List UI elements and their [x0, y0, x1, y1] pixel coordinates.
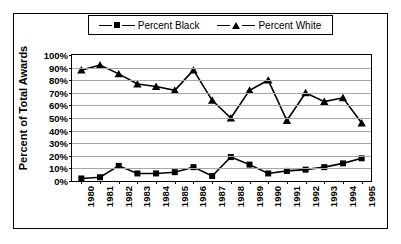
y-tick-label: 40%: [49, 125, 68, 136]
gridline: [72, 131, 371, 132]
x-tick-label: 1994: [347, 186, 358, 207]
y-tick-mark: [69, 105, 72, 106]
legend-line-icon: [122, 25, 135, 26]
x-tick-label: 1984: [160, 186, 171, 207]
gridline: [72, 105, 371, 106]
legend-entry-percent-black: Percent Black: [99, 20, 201, 31]
gridline: [72, 93, 371, 94]
y-tick-label: 70%: [49, 87, 68, 98]
square-marker-icon: [247, 162, 253, 168]
gridline: [72, 80, 371, 81]
gridline: [72, 68, 371, 69]
x-tick-mark: [306, 181, 307, 184]
x-tick-mark: [231, 181, 232, 184]
x-tick-mark: [343, 181, 344, 184]
x-tick-mark: [175, 181, 176, 184]
square-marker-icon: [340, 160, 346, 166]
x-tick-mark: [250, 181, 251, 184]
y-tick-mark: [69, 55, 72, 56]
square-marker-icon: [153, 170, 159, 176]
x-tick-mark: [119, 181, 120, 184]
square-marker-icon: [97, 174, 103, 180]
y-tick-mark: [69, 131, 72, 132]
triangle-marker-icon: [339, 94, 347, 101]
square-marker-icon: [265, 170, 271, 176]
gridline: [72, 168, 371, 169]
y-tick-label: 10%: [49, 163, 68, 174]
x-tick-mark: [268, 181, 269, 184]
y-tick-mark: [69, 93, 72, 94]
triangle-marker-icon: [115, 70, 123, 77]
x-tick-mark: [287, 181, 288, 184]
x-tick-mark: [156, 181, 157, 184]
legend-label-percent-white: Percent White: [257, 20, 322, 31]
y-tick-label: 30%: [49, 138, 68, 149]
legend-line-icon: [217, 25, 230, 26]
x-tick-label: 1992: [310, 186, 321, 207]
x-tick-label: 1988: [235, 186, 246, 207]
square-marker-icon: [209, 173, 215, 179]
y-tick-mark: [69, 68, 72, 69]
series-line-percent-white: [81, 65, 361, 123]
y-tick-label: 60%: [49, 100, 68, 111]
square-marker-icon: [114, 22, 120, 28]
y-tick-mark: [69, 168, 72, 169]
x-tick-label: 1990: [272, 186, 283, 207]
plot-area: 100%90%80%70%60%50%40%30%20%10%0%1980198…: [71, 54, 372, 182]
square-marker-icon: [172, 169, 178, 175]
y-tick-label: 50%: [49, 113, 68, 124]
chart-figure: Percent Black Percent White Percent of T…: [0, 0, 401, 244]
x-tick-label: 1981: [104, 186, 115, 207]
square-marker-icon: [134, 170, 140, 176]
triangle-marker-icon: [208, 96, 216, 103]
y-tick-mark: [69, 181, 72, 182]
x-tick-mark: [100, 181, 101, 184]
y-axis-title: Percent of Total Awards: [17, 33, 29, 183]
x-tick-label: 1995: [366, 186, 377, 207]
chart-legend: Percent Black Percent White: [88, 15, 333, 35]
y-tick-label: 80%: [49, 75, 68, 86]
x-tick-label: 1986: [197, 186, 208, 207]
gridline: [72, 143, 371, 144]
x-tick-label: 1987: [216, 186, 227, 207]
gridline: [72, 156, 371, 157]
x-tick-label: 1982: [123, 186, 134, 207]
x-tick-label: 1985: [179, 186, 190, 207]
y-tick-label: 0%: [54, 176, 68, 187]
legend-line-icon: [99, 25, 112, 26]
x-tick-label: 1980: [85, 186, 96, 207]
x-tick-mark: [81, 181, 82, 184]
x-tick-label: 1991: [291, 186, 302, 207]
triangle-marker-icon: [232, 22, 240, 29]
x-tick-mark: [324, 181, 325, 184]
x-tick-mark: [137, 181, 138, 184]
legend-entry-percent-white: Percent White: [217, 20, 322, 31]
y-tick-mark: [69, 118, 72, 119]
x-tick-mark: [193, 181, 194, 184]
y-tick-mark: [69, 80, 72, 81]
y-tick-label: 90%: [49, 62, 68, 73]
legend-line-icon: [242, 25, 255, 26]
x-tick-label: 1983: [141, 186, 152, 207]
gridline: [72, 118, 371, 119]
x-tick-mark: [212, 181, 213, 184]
y-tick-label: 20%: [49, 150, 68, 161]
legend-label-percent-black: Percent Black: [137, 20, 201, 31]
x-tick-mark: [362, 181, 363, 184]
y-tick-mark: [69, 143, 72, 144]
x-tick-label: 1989: [254, 186, 265, 207]
y-tick-label: 100%: [44, 50, 68, 61]
x-tick-label: 1993: [328, 186, 339, 207]
y-tick-mark: [69, 156, 72, 157]
